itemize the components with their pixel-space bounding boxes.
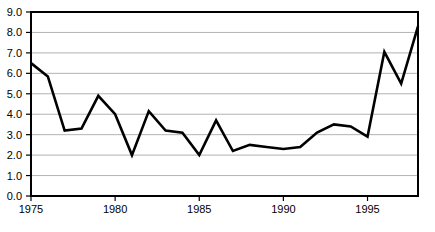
- y-tick-label: 1.0: [7, 170, 22, 182]
- x-tick-label: 1980: [103, 203, 127, 215]
- y-tick-label: 7.0: [7, 47, 22, 59]
- y-tick-label: 9.0: [7, 6, 22, 18]
- y-tick-label: 6.0: [7, 67, 22, 79]
- y-tick-label: 8.0: [7, 26, 22, 38]
- chart-background: [0, 0, 435, 232]
- chart-canvas: 0.01.02.03.04.05.06.07.08.09.0 197519801…: [0, 0, 435, 232]
- y-tick-label: 5.0: [7, 88, 22, 100]
- line-chart: 0.01.02.03.04.05.06.07.08.09.0 197519801…: [0, 0, 435, 232]
- y-tick-label: 3.0: [7, 129, 22, 141]
- x-tick-label: 1985: [187, 203, 211, 215]
- x-tick-label: 1995: [355, 203, 379, 215]
- y-tick-label: 4.0: [7, 108, 22, 120]
- y-tick-label: 0.0: [7, 190, 22, 202]
- x-tick-label: 1990: [271, 203, 295, 215]
- x-tick-label: 1975: [19, 203, 43, 215]
- y-tick-label: 2.0: [7, 149, 22, 161]
